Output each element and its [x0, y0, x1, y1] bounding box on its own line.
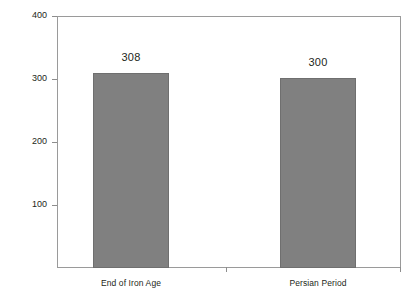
y-tick-mark-200 — [52, 142, 57, 143]
x-axis-tick-divider — [226, 267, 227, 272]
bar-chart: 400 300 200 100 308 300 End of Iron Age … — [0, 0, 419, 297]
y-tick-label-200: 200 — [32, 136, 47, 146]
y-tick-mark-100 — [52, 205, 57, 206]
bar-value-label-end-of-iron-age: 308 — [122, 51, 141, 63]
y-tick-label-100: 100 — [32, 199, 47, 209]
y-tick-label-400: 400 — [32, 10, 47, 20]
y-tick-label-300: 300 — [32, 73, 47, 83]
x-category-label-persian-period: Persian Period — [289, 278, 346, 288]
bar-value-label-persian-period: 300 — [309, 56, 328, 68]
y-tick-mark-300 — [52, 79, 57, 80]
x-category-label-end-of-iron-age: End of Iron Age — [101, 278, 161, 288]
x-axis-tick-right — [400, 267, 401, 272]
bar-end-of-iron-age[interactable] — [93, 73, 169, 268]
bar-persian-period[interactable] — [280, 78, 356, 268]
y-tick-mark-400 — [52, 16, 57, 17]
